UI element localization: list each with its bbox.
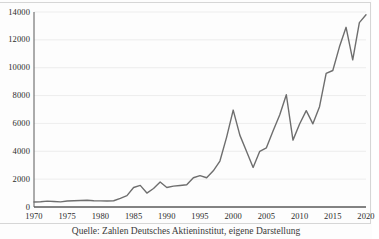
x-tick-label: 1990: [151, 211, 183, 221]
x-tick-label: 1995: [184, 211, 216, 221]
gridlines-group: [34, 12, 366, 207]
x-tick-label: 2020: [350, 211, 379, 221]
figure-caption: Quelle: Zahlen Deutsches Aktieninstitut,…: [0, 226, 372, 236]
x-tick-label: 1980: [84, 211, 116, 221]
x-tick-label: 2000: [217, 211, 249, 221]
y-tick-label: 12000: [8, 34, 30, 44]
y-tick-label: 6000: [13, 118, 30, 128]
x-tick-label: 2015: [317, 211, 349, 221]
y-tick-label: 10000: [8, 62, 30, 72]
x-tick-label: 2005: [250, 211, 282, 221]
y-tick-label: 2000: [13, 174, 30, 184]
axes-group: [34, 12, 366, 207]
x-tick-label: 2010: [284, 211, 316, 221]
series-line-dax: [34, 15, 366, 202]
x-tick-label: 1985: [118, 211, 150, 221]
y-tick-label: 4000: [13, 146, 30, 156]
x-tick-label: 1970: [18, 211, 50, 221]
data-series-group: [34, 15, 366, 202]
y-tick-label: 0: [26, 202, 30, 212]
y-tick-label: 14000: [8, 7, 30, 17]
x-tick-label: 1975: [51, 211, 83, 221]
y-tick-label: 8000: [13, 90, 30, 100]
